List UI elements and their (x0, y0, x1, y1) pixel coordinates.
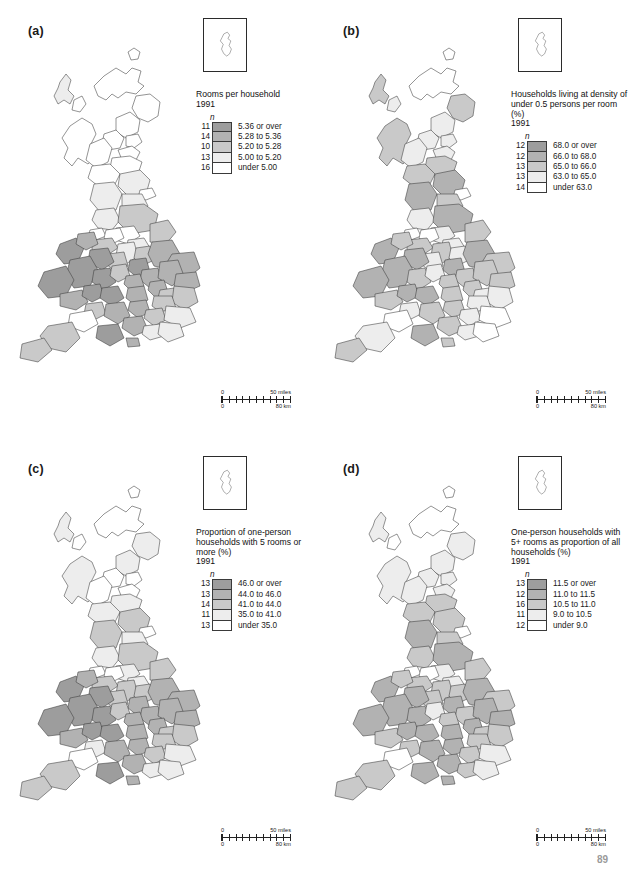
county-dorset (96, 324, 124, 346)
map-great-britain (323, 446, 523, 850)
county-cumbria (405, 182, 437, 212)
legend-class-label: under 9.0 (547, 621, 596, 631)
shetland-outline (535, 470, 546, 494)
panel-b: (b) Households living at density of unde… (315, 0, 630, 438)
scale-miles-max: 50 miles (270, 389, 291, 396)
legend: Proportion of one-person households with… (196, 528, 314, 631)
legend-class-count: 12 (511, 621, 527, 631)
scale-km-labels: 080 km (221, 841, 291, 848)
legend-class-label: 44.0 to 46.0 (232, 590, 282, 600)
county-highland (409, 68, 459, 100)
map-great-britain (8, 8, 208, 412)
legend-class-label: 5.20 to 5.28 (232, 142, 282, 152)
scale-km-zero: 0 (221, 403, 224, 410)
legend-class-label: under 63.0 (547, 183, 597, 193)
county-skye (387, 534, 401, 550)
legend-swatch (527, 152, 547, 162)
scale-km-max: 80 km (591, 403, 606, 410)
county-lancashire (407, 646, 435, 668)
legend: Rooms per household 1991 n 11141013165.3… (196, 90, 314, 174)
legend-class-label: 11.5 or over (547, 579, 596, 589)
legend-n-symbol: n (210, 114, 314, 122)
legend-class-label: 65.0 to 66.0 (547, 162, 597, 172)
legend-rows: 131314111346.0 or over44.0 to 46.041.0 t… (196, 579, 314, 631)
county-dorset (411, 762, 439, 784)
legend-class-count: 10 (196, 142, 212, 152)
map-great-britain (8, 446, 208, 850)
legend: One-person households with 5+ rooms as p… (511, 528, 629, 631)
shetland-outline (220, 32, 231, 56)
county-skye (72, 96, 86, 112)
legend-class-label: 5.36 or over (232, 122, 282, 132)
county-essex (487, 724, 513, 748)
scale-km-max: 80 km (276, 403, 291, 410)
county-orkney (443, 486, 455, 498)
legend-swatch (212, 600, 232, 610)
legend-class-label: 41.0 to 44.0 (232, 600, 282, 610)
county-dorset (96, 762, 124, 784)
county-western-isles (54, 74, 74, 104)
panel-d: (d) One-person households with 5+ rooms … (315, 438, 630, 876)
legend-year: 1991 (511, 557, 629, 567)
legend-rows: 11141013165.36 or over5.28 to 5.365.20 t… (196, 122, 314, 174)
legend-swatch (527, 610, 547, 620)
scale-miles-labels: 050 miles (221, 389, 291, 396)
legend-swatch (212, 163, 232, 173)
legend-swatch (212, 579, 232, 589)
county-isle-wight (441, 776, 455, 785)
legend-class-count: 16 (196, 163, 212, 173)
scale-bar: 050 miles080 km (221, 389, 291, 410)
legend-class-count: 13 (196, 153, 212, 163)
county-e-sussex (158, 760, 184, 780)
legend-swatch (527, 172, 547, 182)
legend-year: 1991 (196, 100, 314, 110)
county-essex (172, 286, 198, 310)
legend-class-label: 9.0 to 10.5 (547, 610, 596, 620)
scale-miles-zero: 0 (536, 389, 539, 396)
shetland-islands-inset (203, 456, 247, 510)
legend-class-count: 11 (196, 610, 212, 620)
legend-class-count: 13 (196, 621, 212, 631)
legend-class-count: 12 (511, 152, 527, 162)
scale-km-zero: 0 (221, 841, 224, 848)
legend-class-label: 11.0 to 11.5 (547, 590, 596, 600)
county-western-isles (369, 512, 389, 542)
legend-swatch (212, 610, 232, 620)
county-skye (387, 96, 401, 112)
legend-class-count: 13 (511, 579, 527, 589)
legend-swatch (212, 621, 232, 631)
legend-class-count: 14 (196, 600, 212, 610)
legend-swatch (527, 141, 547, 151)
shetland-islands-inset (518, 18, 562, 72)
legend-swatch (527, 162, 547, 172)
legend-class-label: 5.28 to 5.36 (232, 132, 282, 142)
legend-swatch (212, 122, 232, 132)
county-highland (94, 506, 144, 538)
legend-class-count: 14 (196, 132, 212, 142)
legend-swatch (527, 579, 547, 589)
legend: Households living at density of under 0.… (511, 90, 629, 193)
county-essex (487, 286, 513, 310)
county-lancashire (92, 646, 120, 668)
scale-miles-zero: 0 (221, 389, 224, 396)
county-essex (172, 724, 198, 748)
legend-n-symbol: n (210, 571, 314, 579)
legend-class-count: 11 (196, 122, 212, 132)
scale-km-max: 80 km (591, 841, 606, 848)
legend-class-count: 12 (511, 141, 527, 151)
scale-ticks-miles (536, 834, 606, 841)
legend-class-label: 10.5 to 11.0 (547, 600, 596, 610)
legend-swatch (212, 590, 232, 600)
scale-ticks-miles (221, 396, 291, 403)
scale-bar: 050 miles080 km (536, 827, 606, 848)
scale-km-labels: 080 km (536, 403, 606, 410)
county-e-sussex (473, 760, 499, 780)
legend-swatch (212, 153, 232, 163)
scale-miles-labels: 050 miles (536, 389, 606, 396)
legend-class-label: 63.0 to 65.0 (547, 172, 597, 182)
county-western-isles (54, 512, 74, 542)
county-lancashire (407, 208, 435, 230)
shetland-outline (220, 470, 231, 494)
scale-km-zero: 0 (536, 403, 539, 410)
panel-c: (c) Proportion of one-person households … (0, 438, 315, 876)
